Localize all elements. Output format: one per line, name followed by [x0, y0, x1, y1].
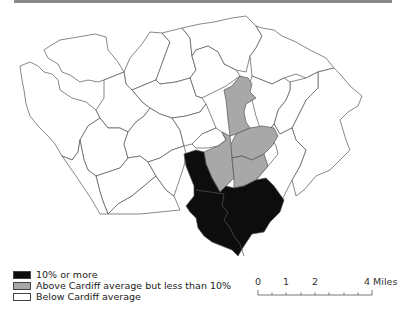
legend-item-below-average: Below Cardiff average — [13, 291, 231, 302]
legend-swatch-grey — [13, 282, 31, 290]
ward-northwest-1 — [44, 34, 124, 82]
scale-label-4-miles: 4 Miles — [364, 276, 397, 287]
ward-grey-north — [224, 76, 256, 136]
legend-swatch-white — [13, 293, 31, 301]
scale-label-0: 0 — [255, 276, 261, 287]
scale-bar-line — [255, 288, 400, 300]
legend-item-high: 10% or more — [13, 269, 231, 280]
legend-label: Above Cardiff average but less than 10% — [36, 280, 231, 291]
legend-label: Below Cardiff average — [36, 291, 141, 302]
legend-item-above-average: Above Cardiff average but less than 10% — [13, 280, 231, 291]
scale-label-2: 2 — [312, 276, 318, 287]
scale-bar: 0 1 2 4 Miles — [255, 276, 400, 300]
legend-swatch-black — [13, 271, 31, 279]
map-legend: 10% or more Above Cardiff average but le… — [13, 269, 231, 302]
cardiff-ward-map — [0, 0, 406, 262]
scale-label-1: 1 — [283, 276, 289, 287]
legend-label: 10% or more — [36, 269, 97, 280]
